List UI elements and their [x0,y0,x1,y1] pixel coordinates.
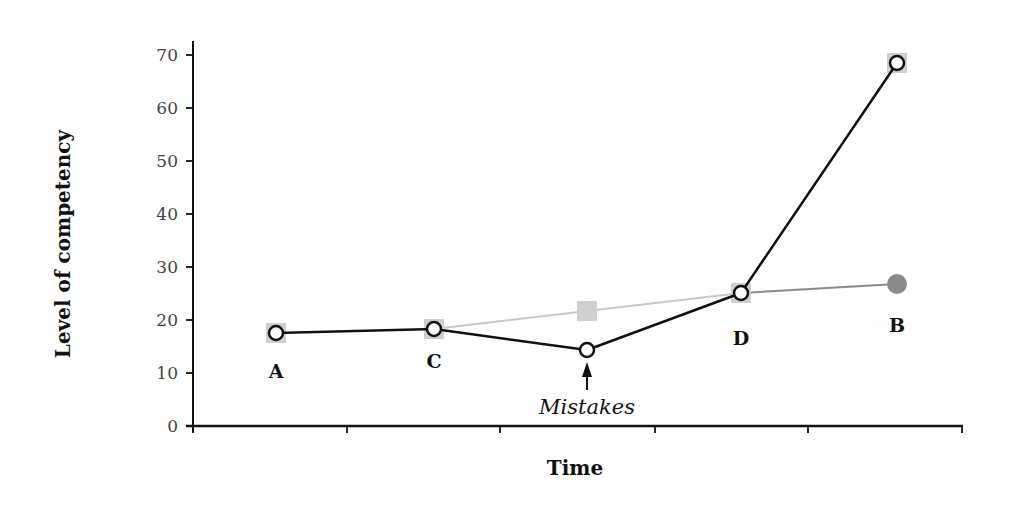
y-tick-10: 10 [156,363,178,383]
x-axis-title: Time [547,456,603,480]
mistakes-arrow-icon [582,362,592,390]
b-line [741,284,897,293]
circle-marker-mistakes [580,343,594,357]
y-tick-labels: 0 10 20 30 40 50 60 70 [156,45,178,436]
point-label-b: B [889,314,905,336]
circle-marker-a [269,326,283,340]
mistakes-annotation: Mistakes [538,395,635,419]
y-tick-60: 60 [156,98,178,118]
y-tick-20: 20 [156,310,178,330]
b-marker [887,274,907,294]
y-tick-30: 30 [156,257,178,277]
competency-chart: 0 10 20 30 40 50 60 70 Level of competen… [0,0,1011,505]
circle-marker-d [734,286,748,300]
point-label-c: C [426,350,441,372]
y-ticks [186,55,193,426]
y-axis-title: Level of competency [51,128,75,358]
y-tick-50: 50 [156,151,178,171]
point-label-a: A [268,360,284,382]
point-label-d: D [733,327,749,349]
circle-marker-c [427,322,441,336]
y-tick-0: 0 [167,416,178,436]
y-tick-40: 40 [156,204,178,224]
square-marker-expected [577,301,597,321]
y-tick-70: 70 [156,45,178,65]
circle-marker-top [890,56,904,70]
expected-markers [266,53,907,343]
